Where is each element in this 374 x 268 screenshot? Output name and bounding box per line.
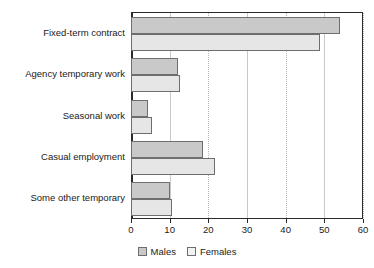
category-label-4: Some other temporary: [0, 192, 125, 203]
bar-males-3: [131, 141, 203, 158]
x-tick-label-50: 50: [309, 224, 339, 235]
chart-legend: MalesFemales: [0, 246, 374, 257]
plot-area: [131, 12, 363, 219]
bars-layer: [131, 13, 362, 218]
legend-item-females[interactable]: Females: [187, 246, 236, 257]
category-label-3: Casual employment: [0, 151, 125, 162]
legend-label: Females: [200, 246, 236, 257]
category-label-1: Agency temporary work: [0, 68, 125, 79]
bar-males-2: [131, 100, 148, 117]
bar-females-1: [131, 75, 180, 92]
x-tick-mark-20: [208, 219, 209, 223]
category-label-2: Seasonal work: [0, 110, 125, 121]
bar-females-3: [131, 158, 215, 175]
bar-males-0: [131, 17, 340, 34]
x-tick-mark-30: [247, 219, 248, 223]
bar-females-0: [131, 34, 320, 51]
x-tick-label-0: 0: [116, 224, 146, 235]
gridline-60: [363, 13, 365, 218]
x-tick-label-30: 30: [232, 224, 262, 235]
x-tick-mark-10: [170, 219, 171, 223]
bar-males-1: [131, 58, 178, 75]
x-tick-mark-40: [286, 219, 287, 223]
category-label-0: Fixed-term contract: [0, 27, 125, 38]
legend-swatch-icon-females: [187, 247, 196, 256]
x-tick-mark-0: [131, 219, 132, 223]
x-tick-mark-60: [363, 219, 364, 223]
x-tick-label-40: 40: [271, 224, 301, 235]
x-tick-label-10: 10: [155, 224, 185, 235]
legend-label: Males: [151, 246, 176, 257]
x-tick-mark-50: [324, 219, 325, 223]
x-tick-label-20: 20: [193, 224, 223, 235]
bar-males-4: [131, 182, 170, 199]
legend-item-males[interactable]: Males: [138, 246, 176, 257]
legend-swatch-icon-males: [138, 247, 147, 256]
bar-females-2: [131, 117, 152, 134]
x-tick-label-60: 60: [348, 224, 374, 235]
bar-females-4: [131, 199, 172, 216]
bar-chart: Fixed-term contractAgency temporary work…: [0, 0, 374, 268]
